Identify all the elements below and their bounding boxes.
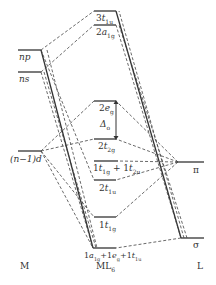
column-ligand: L [197, 262, 203, 271]
label-2a1g: 2a1g [96, 28, 115, 39]
label-sigma: σ [193, 241, 199, 250]
label-2eg: 2eg [99, 104, 114, 115]
label-np: np [19, 53, 31, 62]
column-complex: ML6 [96, 262, 115, 273]
label-ns: ns [19, 75, 29, 84]
label-bonding: 1a1g+1eg+1t1u [84, 252, 141, 262]
label-1t1g: 1t1g [99, 221, 116, 232]
label-2t1u: 2t1u [99, 184, 116, 195]
column-metal: M [20, 262, 29, 271]
label-delta-o: Δo [100, 120, 110, 131]
label-1t1g-1t2u: 1t1g + 1t2u [93, 164, 140, 175]
label-pi: π [193, 166, 199, 175]
label-2t2g: 2t2g [98, 142, 115, 153]
label-d: (n−1)d [10, 155, 42, 164]
label-3t1u: 3t1u [96, 14, 113, 25]
